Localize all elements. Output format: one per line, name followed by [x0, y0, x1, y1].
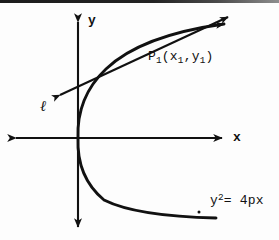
parabola-diagram: y x P1(x1,y1) ℓ y2= 4px: [0, 0, 279, 240]
parabola-upper-branch: [78, 24, 224, 138]
parabola-equation-label: y2= 4px: [210, 193, 264, 207]
point-open-paren: (: [162, 49, 170, 64]
parabola-lower-branch: [78, 138, 216, 218]
point-comma: ,: [184, 49, 192, 64]
point-label: P1(x1,y1): [148, 50, 214, 65]
equation-remainder: = 4px: [224, 193, 264, 208]
curve-end-dot: [198, 211, 201, 214]
equation-variable: y: [210, 193, 218, 208]
point-coord-x: x: [170, 49, 178, 64]
point-base: P: [148, 49, 156, 64]
point-coord-y: y: [192, 49, 200, 64]
x-axis-label: x: [233, 131, 241, 144]
y-axis-label: y: [88, 14, 96, 27]
point-close-paren: ): [206, 49, 214, 64]
tangent-line-label: ℓ: [40, 99, 46, 114]
